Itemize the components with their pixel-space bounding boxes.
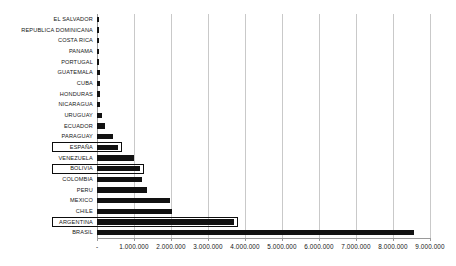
chart-row: PORTUGAL [0, 57, 456, 68]
bar-track [97, 131, 430, 142]
bar-uruguay [97, 113, 102, 118]
category-label-ecuador: ECUADOR [0, 121, 93, 132]
bar-bolivia [97, 166, 140, 171]
chart-row: MEXICO [0, 195, 456, 206]
category-label-chile: CHILE [0, 206, 93, 217]
bar-el-salvador [97, 17, 99, 22]
chart-row: HONDURAS [0, 89, 456, 100]
bar-track [97, 227, 430, 238]
chart-row: EL SALVADOR [0, 14, 456, 25]
chart-row: COSTA RICA [0, 35, 456, 46]
x-axis-tickmark [356, 238, 357, 241]
x-axis-tickmark [171, 238, 172, 241]
bar-portugal [97, 59, 99, 64]
chart-row: BRASIL [0, 227, 456, 238]
bar-paraguay [97, 134, 113, 139]
bar-ecuador [97, 123, 105, 128]
category-label-honduras: HONDURAS [0, 89, 93, 100]
category-label-el-salvador: EL SALVADOR [0, 14, 93, 25]
category-label-cuba: CUBA [0, 78, 93, 89]
category-label-mexico: MEXICO [0, 195, 93, 206]
chart-row: VENEZUELA [0, 153, 456, 164]
x-axis-tickmark [208, 238, 209, 241]
x-axis-tickmark [319, 238, 320, 241]
bar-guatemala [97, 70, 100, 75]
bar-track [97, 174, 430, 185]
bar-track [97, 25, 430, 36]
bar-track [97, 217, 430, 228]
bar-panama [97, 49, 99, 54]
bar-honduras [97, 91, 100, 96]
bar-track [97, 89, 430, 100]
chart-row: CHILE [0, 206, 456, 217]
bar-track [97, 57, 430, 68]
x-axis-tickmark [134, 238, 135, 241]
bar-espa-a [97, 145, 118, 150]
category-label-peru: PERU [0, 185, 93, 196]
bar-track [97, 67, 430, 78]
chart-row: URUGUAY [0, 110, 456, 121]
bar-republica-dominicana [97, 27, 99, 32]
bar-venezuela [97, 155, 134, 160]
bar-track [97, 99, 430, 110]
bar-track [97, 78, 430, 89]
chart-row: PERU [0, 185, 456, 196]
bar-track [97, 121, 430, 132]
category-label-panama: PANAMA [0, 46, 93, 57]
x-axis-tick-labels: -1.000.0002.000.0003.000.0004.000.0005.0… [0, 243, 456, 257]
bar-track [97, 153, 430, 164]
chart-row: PANAMA [0, 46, 456, 57]
bar-peru [97, 187, 147, 192]
bar-track [97, 110, 430, 121]
chart-row: ECUADOR [0, 121, 456, 132]
bar-track [97, 185, 430, 196]
x-axis-tick-label: 7.000.000 [341, 243, 370, 250]
chart-row: NICARAGUA [0, 99, 456, 110]
bar-track [97, 195, 430, 206]
category-label-paraguay: PARAGUAY [0, 131, 93, 142]
chart-row: ESPAÑA [0, 142, 456, 153]
chart-row: COLOMBIA [0, 174, 456, 185]
x-axis-tickmark [245, 238, 246, 241]
bar-track [97, 206, 430, 217]
bar-brasil [97, 230, 414, 235]
category-label-guatemala: GUATEMALA [0, 67, 93, 78]
bar-chile [97, 209, 172, 214]
x-axis-line [97, 238, 430, 239]
bar-mexico [97, 198, 170, 203]
x-axis-tick-label: 3.000.000 [193, 243, 222, 250]
category-label-espa-a: ESPAÑA [0, 142, 93, 153]
chart-row: REPUBLICA DOMINICANA [0, 25, 456, 36]
category-label-colombia: COLOMBIA [0, 174, 93, 185]
x-axis-tickmark [430, 238, 431, 241]
chart-row: PARAGUAY [0, 131, 456, 142]
chart-row: BOLIVIA [0, 163, 456, 174]
x-axis-tickmark [97, 238, 98, 241]
bar-track [97, 14, 430, 25]
x-axis-tickmark [282, 238, 283, 241]
category-label-venezuela: VENEZUELA [0, 153, 93, 164]
category-label-bolivia: BOLIVIA [0, 163, 93, 174]
category-label-costa-rica: COSTA RICA [0, 35, 93, 46]
bar-cuba [97, 81, 100, 86]
x-axis-tick-label: - [96, 243, 98, 250]
chart-row: CUBA [0, 78, 456, 89]
category-label-republica-dominicana: REPUBLICA DOMINICANA [0, 25, 93, 36]
x-axis-tick-label: 1.000.000 [119, 243, 148, 250]
bar-argentina [97, 219, 234, 224]
x-axis-tick-label: 8.000.000 [378, 243, 407, 250]
category-label-argentina: ARGENTINA [0, 217, 93, 228]
category-label-brasil: BRASIL [0, 227, 93, 238]
bar-track [97, 35, 430, 46]
bar-costa-rica [97, 38, 99, 43]
x-axis-tick-label: 6.000.000 [304, 243, 333, 250]
x-axis-tick-label: 2.000.000 [156, 243, 185, 250]
chart-row: ARGENTINA [0, 217, 456, 228]
bar-colombia [97, 177, 142, 182]
bar-chart: -1.000.0002.000.0003.000.0004.000.0005.0… [0, 0, 456, 266]
category-label-uruguay: URUGUAY [0, 110, 93, 121]
bar-track [97, 142, 430, 153]
category-label-portugal: PORTUGAL [0, 57, 93, 68]
x-axis-tick-label: 5.000.000 [267, 243, 296, 250]
x-axis-tick-label: 4.000.000 [230, 243, 259, 250]
